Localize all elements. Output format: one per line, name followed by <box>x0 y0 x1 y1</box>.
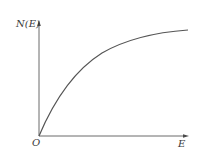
curve-n-of-e <box>39 30 188 136</box>
chart-container: N(E) O E <box>0 0 200 154</box>
x-axis-label: E <box>178 139 185 149</box>
origin-label: O <box>32 138 40 148</box>
y-axis-label: N(E) <box>16 19 40 29</box>
